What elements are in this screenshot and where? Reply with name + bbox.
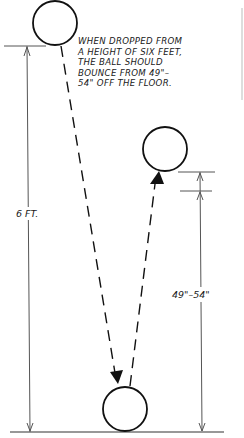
six-ft-dimension-line <box>27 46 30 432</box>
note-line: A HEIGHT OF SIX FEET, <box>78 47 244 58</box>
instruction-note: WHEN DROPPED FROM A HEIGHT OF SIX FEET, … <box>78 36 244 89</box>
bounce-path <box>130 184 155 386</box>
note-line: THE BALL SHOULD <box>78 57 244 68</box>
drop-height-label: 6 FT. <box>16 207 38 220</box>
bounce-height-label: 49"–54" <box>172 287 210 302</box>
top-ball <box>33 1 77 45</box>
note-line: WHEN DROPPED FROM <box>78 36 244 47</box>
bounced-ball <box>143 127 187 171</box>
floor-ball <box>103 387 147 431</box>
drop-arrowhead-icon <box>110 370 123 384</box>
note-line: BOUNCE FROM 49"– <box>78 68 244 79</box>
drop-path <box>61 46 115 373</box>
bounce-arrowhead-icon <box>150 171 164 184</box>
note-line: 54" OFF THE FLOOR. <box>78 78 244 89</box>
